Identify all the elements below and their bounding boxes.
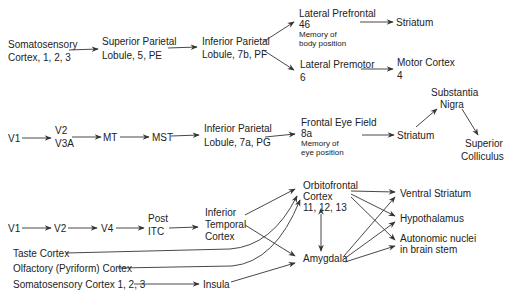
arrow [351,197,395,240]
node-taste-cortex: Taste Cortex [13,248,69,259]
node-frontal-eye-field: Frontal Eye Field 8a Memory of eye posit… [301,117,377,157]
node-somatosensory-cortex: Somatosensory Cortex, 1, 2, 3 [8,39,77,63]
arrow [351,191,395,192]
node-motor-cortex: Motor Cortex 4 [397,57,455,81]
node-label: Superior [465,138,503,149]
node-label: Cortex [205,231,234,242]
node-ventral-striatum: Ventral Striatum [400,188,471,199]
node-label: Colliculus [461,151,504,162]
node-olfactory-cortex: Olfactory (Pyriform) Cortex [13,263,132,274]
node-annotation: Memory of [301,139,340,148]
node-label: Inferior [205,207,237,218]
node-label: Lateral Prefrontal [299,8,376,19]
node-autonomic-nuclei: Autonomic nuclei in brain stem [400,233,476,255]
node-label: ITC [148,226,164,237]
node-inferior-parietal-7b: Inferior Parietal Lobule, 7b, PF [202,36,270,60]
node-v2: V2 [54,223,67,234]
node-mst: MST [152,132,173,143]
arrow [416,109,437,127]
node-label: Inferior Parietal [204,123,272,134]
arrow [462,109,478,135]
node-hypothalamus: Hypothalamus [400,213,464,224]
node-label: Nigra [440,99,464,110]
node-amygdala: Amygdala [303,253,348,264]
node-label: V3A [55,138,74,149]
node-v2-v3a: V2 V3A [55,125,74,149]
node-orbitofrontal-cortex: Orbitofrontal Cortex 11, 12, 13 [303,180,358,213]
node-v1: V1 [8,133,21,144]
arrow [168,47,197,48]
arrow [231,263,295,282]
node-mt: MT [103,132,117,143]
node-label: V2 [55,125,68,136]
node-label: Inferior Parietal [202,36,270,47]
node-superior-colliculus: Superior Colliculus [461,138,504,162]
pathway-body-position: Somatosensory Cortex, 1, 2, 3 Superior P… [8,8,455,83]
arrow [169,227,198,228]
node-label: Autonomic nuclei [400,233,476,244]
node-label: 6 [300,72,306,83]
arrow [263,22,294,42]
node-label: 11, 12, 13 [303,202,347,213]
node-label: Superior Parietal [102,36,176,47]
node-annotation: eye position [301,148,344,157]
node-label: 4 [397,70,403,81]
pathway-emotion-reward: V1 V2 V4 Post ITC Inferior Temporal Cort… [8,180,476,290]
node-annotation: body position [299,39,346,48]
node-striatum: Striatum [396,17,433,28]
arrow [344,197,395,256]
node-inferior-parietal-7a: Inferior Parietal Lobule, 7a, PG [204,123,272,148]
neural-pathway-diagram: Somatosensory Cortex, 1, 2, 3 Superior P… [0,0,506,300]
node-label: 8a [301,128,313,139]
node-annotation: Memory of [299,30,338,39]
node-label: Frontal Eye Field [301,117,377,128]
node-label: Lobule, 5, PE [102,50,162,61]
node-post-itc: Post ITC [148,213,168,237]
arrow [345,246,395,262]
arrow [265,134,295,137]
node-label: Lobule, 7b, PF [202,49,267,60]
node-label: Cortex [303,191,332,202]
node-label: Temporal [205,219,246,230]
arrow [263,50,294,70]
node-superior-parietal-lobule: Superior Parietal Lobule, 5, PE [102,36,176,61]
node-label: Lobule, 7a, PG [204,137,271,148]
node-label: Somatosensory [8,39,77,50]
node-label: Cortex, 1, 2, 3 [8,52,71,63]
node-label: Motor Cortex [397,57,455,68]
arrow [245,225,295,256]
node-somatosensory-cortex: Somatosensory Cortex 1, 2, 3 [13,279,146,290]
arrow [171,135,199,136]
arrow [245,189,295,215]
node-label: Orbitofrontal [303,180,358,191]
node-label: Post [148,213,168,224]
node-lateral-prefrontal: Lateral Prefrontal 46 Memory of body pos… [299,8,376,48]
node-striatum: Striatum [397,130,434,141]
arrow [344,222,395,259]
node-substantia-nigra: Substantia Nigra [431,87,479,110]
node-label: Lateral Premotor [300,59,375,70]
node-label: 46 [299,19,311,30]
node-insula: Insula [203,279,230,290]
node-inferior-temporal-cortex: Inferior Temporal Cortex [205,207,246,242]
pathway-eye-position: V1 V2 V3A MT MST Inferior Parietal Lobul… [8,87,504,162]
node-v1: V1 [8,223,21,234]
node-v4: V4 [101,223,114,234]
node-label: in brain stem [400,244,457,255]
node-label: Substantia [431,87,479,98]
node-lateral-premotor: Lateral Premotor 6 [300,59,375,83]
